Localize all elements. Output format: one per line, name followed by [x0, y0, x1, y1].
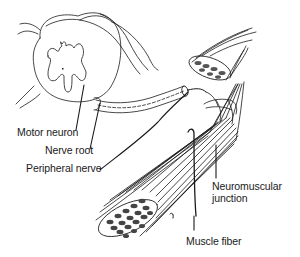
- label-muscle-fiber: Muscle fiber: [186, 235, 241, 247]
- motor-unit-diagram: Motor neuron Nerve root Peripheral nerve…: [0, 0, 300, 257]
- label-neuromuscular-junction-line2: junction: [212, 192, 247, 204]
- label-nerve-root: Nerve root: [45, 144, 93, 156]
- label-motor-neuron: Motor neuron: [17, 126, 78, 138]
- muscle-bundle-large: [93, 82, 244, 244]
- muscle-bundle-small: [186, 28, 256, 85]
- label-peripheral-nerve: Peripheral nerve: [26, 162, 101, 174]
- nerve-root-and-peripheral-nerve: [94, 85, 218, 170]
- spinal-cord: [16, 13, 158, 108]
- label-neuromuscular-junction-line1: Neuromuscular: [212, 180, 282, 192]
